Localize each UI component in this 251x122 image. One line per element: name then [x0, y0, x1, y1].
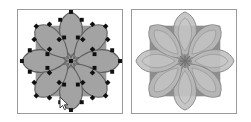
control-point[interactable]: [62, 36, 66, 40]
control-point[interactable]: [69, 10, 73, 14]
preview-canvas[interactable]: [132, 10, 236, 113]
center-star: [178, 54, 192, 68]
control-point[interactable]: [93, 52, 97, 56]
control-point[interactable]: [76, 36, 80, 40]
control-point[interactable]: [45, 66, 49, 70]
control-point[interactable]: [76, 83, 80, 87]
rosette-preview-svg: [132, 10, 236, 113]
panel-preview-view[interactable]: [131, 9, 237, 114]
editing-canvas[interactable]: [18, 10, 122, 113]
control-point[interactable]: [58, 18, 62, 22]
control-point[interactable]: [58, 100, 62, 104]
control-point[interactable]: [20, 59, 24, 63]
figure-root: [0, 0, 251, 122]
control-point[interactable]: [28, 70, 32, 74]
control-point[interactable]: [110, 70, 114, 74]
control-point[interactable]: [80, 18, 84, 22]
control-point[interactable]: [69, 108, 73, 112]
control-point[interactable]: [93, 66, 97, 70]
control-point[interactable]: [118, 59, 122, 63]
control-point[interactable]: [28, 48, 32, 52]
rosette-editing-svg: [18, 10, 122, 113]
control-point[interactable]: [80, 100, 84, 104]
control-point-center[interactable]: [69, 59, 73, 63]
control-point[interactable]: [45, 52, 49, 56]
panel-editing-view[interactable]: [17, 9, 123, 114]
control-point[interactable]: [62, 83, 66, 87]
control-point[interactable]: [110, 48, 114, 52]
